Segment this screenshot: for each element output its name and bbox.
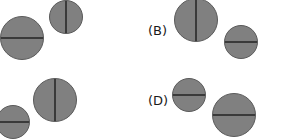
diameter-line-vertical bbox=[65, 1, 67, 33]
diameter-line-horizontal bbox=[1, 37, 43, 39]
circle-b-vertical bbox=[174, 0, 218, 42]
diameter-line-vertical bbox=[54, 79, 56, 121]
stimulus-canvas: (B)(D) bbox=[0, 0, 294, 140]
circle-c-vertical bbox=[33, 78, 77, 122]
panel-label-d: (D) bbox=[148, 94, 168, 107]
diameter-line-horizontal bbox=[213, 114, 255, 116]
circle-a-vertical bbox=[49, 0, 83, 34]
diameter-line-vertical bbox=[195, 0, 197, 41]
panel-label-b: (B) bbox=[148, 24, 167, 37]
circle-b-horizontal bbox=[224, 25, 258, 59]
circle-a-horizontal bbox=[0, 16, 44, 60]
diameter-line-horizontal bbox=[225, 41, 257, 43]
circle-d-horizontal bbox=[212, 93, 256, 137]
circle-d-horizontal bbox=[172, 78, 206, 112]
diameter-line-horizontal bbox=[173, 94, 205, 96]
diameter-line-horizontal bbox=[0, 121, 29, 123]
circle-c-horizontal bbox=[0, 105, 30, 139]
